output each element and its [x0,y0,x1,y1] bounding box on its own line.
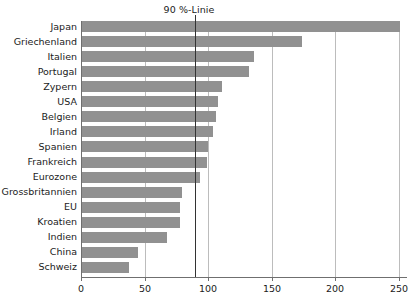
bar [82,96,218,107]
category-label: Italien [0,51,77,62]
category-label: EU [0,201,77,212]
category-label: China [0,246,77,257]
category-label: Spanien [0,141,77,152]
category-label: Portugal [0,66,77,77]
tick-label-200: 200 [326,283,344,294]
bar [82,232,167,243]
category-label: Grossbritannien [0,186,77,197]
category-label: Eurozone [0,171,77,182]
category-label: Frankreich [0,156,77,167]
category-label: Zypern [0,81,77,92]
category-label: Griechenland [0,36,77,47]
category-label: Indien [0,231,77,242]
tick-label-0: 0 [78,283,84,294]
bar [82,81,222,92]
bar [82,157,207,168]
bar-chart: 90 %-Linie 050100150200250 JapanGriechen… [0,0,414,308]
category-label: Irland [0,126,77,137]
category-label: USA [0,96,77,107]
category-label: Schweiz [0,261,77,272]
tick-label-50: 50 [139,283,151,294]
bar [82,66,249,77]
x-axis-line [81,277,407,278]
chart-title-text: 90 %-Linie [163,4,214,15]
tick-mark-200 [335,277,336,281]
reference-line-90 [195,15,196,277]
tick-label-100: 100 [199,283,217,294]
gridline-150 [272,21,273,277]
bar [82,21,400,32]
bar [82,126,213,137]
tick-label-250: 250 [390,283,408,294]
category-label: Japan [0,21,77,32]
bar [82,141,208,152]
bar [82,187,182,198]
bar [82,172,200,183]
bar [82,217,180,228]
gridline-250 [399,21,400,277]
tick-mark-0 [81,277,82,281]
category-label: Belgien [0,111,77,122]
bar [82,51,254,62]
tick-label-150: 150 [263,283,281,294]
bar [82,247,138,258]
tick-mark-250 [399,277,400,281]
bar [82,262,129,273]
bar [82,202,180,213]
bar [82,36,302,47]
tick-mark-50 [145,277,146,281]
chart-title: 90 %-Linie [0,4,414,15]
tick-mark-100 [208,277,209,281]
category-label: Kroatien [0,216,77,227]
gridline-200 [335,21,336,277]
tick-mark-150 [272,277,273,281]
